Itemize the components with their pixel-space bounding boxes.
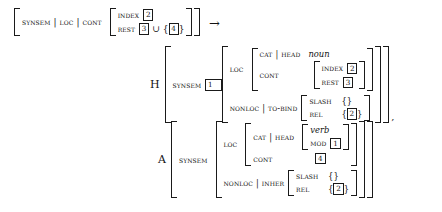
feature-cat: CAT bbox=[260, 49, 273, 59]
h-nonloc-row: NONLOC | TO-BIND SLASH {} bbox=[230, 93, 374, 124]
mother-avm: SYNSEM | LOC | CONT INDEX 2 REST 3 bbox=[14, 8, 200, 36]
slash-row: SLASH {} bbox=[296, 170, 349, 182]
path-separator: | bbox=[266, 132, 275, 142]
feature-loc: LOC bbox=[230, 64, 252, 74]
tag-rest: 3 bbox=[139, 23, 149, 35]
tag-mod: 1 bbox=[330, 138, 340, 150]
path-separator: | bbox=[253, 178, 262, 188]
bracket-right bbox=[343, 124, 349, 150]
h-cont-matrix: INDEX 2 REST 3 bbox=[314, 61, 366, 89]
h-to-bind-matrix: SLASH {} REL { 2 } bbox=[301, 95, 370, 121]
mother-rows: SYNSEM | LOC | CONT INDEX 2 REST 3 bbox=[22, 8, 192, 36]
bracket-right bbox=[375, 46, 381, 123]
tag-index: 2 bbox=[347, 63, 357, 75]
bracket-right bbox=[351, 170, 357, 196]
h-cat-head-row: CAT | HEAD noun bbox=[260, 48, 366, 60]
bracket-left bbox=[14, 8, 20, 36]
daughter-separator-comma: , bbox=[389, 111, 394, 123]
bracket-left bbox=[222, 46, 228, 123]
tag-rel: 2 bbox=[333, 183, 343, 195]
h-loc-rows: CAT | HEAD noun CONT bbox=[260, 48, 366, 90]
feature-inher: INHER bbox=[262, 178, 288, 188]
type-noun: noun bbox=[308, 49, 329, 59]
bracket-right bbox=[186, 8, 192, 36]
bracket-left bbox=[252, 48, 258, 90]
a-synsem-matrix: LOC CAT | HEAD bbox=[216, 121, 365, 198]
path-separator: | bbox=[51, 17, 60, 27]
mother-cont-matrix: INDEX 2 REST 3 ∪ { 4 } bbox=[110, 8, 193, 36]
rest-row: REST 3 ∪ { 4 } bbox=[118, 22, 185, 36]
bracket-right bbox=[367, 121, 373, 198]
union-operator: ∪ bbox=[149, 24, 163, 34]
set-close-brace: } bbox=[357, 109, 362, 119]
feature-cont: CONT bbox=[260, 70, 314, 80]
a-loc-rows: CAT | HEAD verb bbox=[253, 123, 348, 165]
h-synsem-matrix: LOC CAT | HEAD noun bbox=[222, 46, 382, 123]
a-outer-matrix: SYNSEM LOC CAT bbox=[171, 121, 373, 198]
daughter-label-a: A bbox=[158, 154, 171, 165]
feature-cont: CONT bbox=[253, 154, 315, 164]
feature-index: INDEX bbox=[118, 10, 144, 20]
type-verb: verb bbox=[310, 125, 329, 135]
h-loc-matrix: CAT | HEAD noun CONT bbox=[252, 48, 374, 90]
feature-mod: MOD bbox=[310, 138, 330, 148]
bracket-right bbox=[359, 61, 365, 89]
bracket-left bbox=[171, 121, 177, 198]
feature-slash: SLASH bbox=[309, 96, 341, 106]
h-synsem-rows: LOC CAT | HEAD noun bbox=[230, 46, 374, 123]
tag-rest-addend: 4 bbox=[169, 23, 179, 35]
feature-rest: REST bbox=[118, 24, 139, 34]
h-cont-rows: INDEX 2 REST 3 bbox=[322, 61, 358, 89]
a-head-rows: verb MOD 1 bbox=[310, 124, 340, 150]
path-separator: | bbox=[73, 17, 82, 27]
feature-loc: LOC bbox=[224, 139, 246, 149]
a-inher-rows: SLASH {} REL { 2 } bbox=[296, 170, 349, 196]
feature-nonloc: NONLOC bbox=[224, 178, 254, 188]
tag-rest: 3 bbox=[343, 77, 353, 89]
feature-synsem: SYNSEM bbox=[173, 80, 206, 90]
tag-synsem: 1 bbox=[205, 79, 222, 91]
a-rows: SYNSEM LOC CAT bbox=[179, 121, 365, 198]
h-loc-row: LOC CAT | HEAD noun bbox=[230, 46, 374, 93]
mother-cont-rows: INDEX 2 REST 3 ∪ { 4 } bbox=[118, 8, 185, 36]
rel-row: REL { 2 } bbox=[296, 182, 349, 196]
slash-row: SLASH {} bbox=[309, 95, 362, 107]
a-synsem-row: SYNSEM LOC CAT bbox=[179, 121, 365, 198]
a-loc-row: LOC CAT | HEAD bbox=[224, 121, 357, 168]
rest-row: REST 3 bbox=[322, 75, 358, 89]
h-to-bind-rows: SLASH {} REL { 2 } bbox=[309, 95, 362, 121]
bracket-right bbox=[367, 48, 373, 90]
bracket-right bbox=[359, 121, 365, 198]
h-cont-row: CONT INDEX 2 bbox=[260, 60, 366, 90]
bracket-left bbox=[288, 170, 294, 196]
feature-rel: REL bbox=[309, 109, 341, 119]
a-cat-head-row: CAT | HEAD verb bbox=[253, 123, 348, 151]
implication-arrow: → bbox=[209, 17, 220, 30]
bracket-left bbox=[165, 46, 171, 123]
a-head-matrix: verb MOD 1 bbox=[302, 124, 348, 150]
a-cont-row: CONT 4 bbox=[253, 152, 348, 166]
rel-row: REL { 2 } bbox=[309, 107, 362, 121]
feature-nonloc: NONLOC bbox=[230, 103, 260, 113]
bracket-left bbox=[110, 8, 116, 36]
a-head-type-row: verb bbox=[310, 124, 340, 136]
bracket-left bbox=[245, 123, 251, 165]
path-separator: | bbox=[259, 103, 268, 113]
index-row: INDEX 2 bbox=[118, 8, 185, 22]
index-row: INDEX 2 bbox=[322, 61, 358, 75]
bracket-right bbox=[194, 8, 200, 36]
bracket-left bbox=[301, 95, 307, 121]
set-close-brace: } bbox=[179, 24, 185, 34]
feature-loc: LOC bbox=[60, 17, 74, 27]
feature-cont: CONT bbox=[82, 17, 109, 27]
path-separator: | bbox=[272, 49, 281, 59]
feature-synsem: SYNSEM bbox=[22, 17, 51, 27]
bracket-right bbox=[351, 123, 357, 165]
empty-set: {} bbox=[341, 96, 352, 106]
bracket-right bbox=[364, 95, 370, 121]
tag-rel: 2 bbox=[347, 108, 357, 120]
mother-path-row: SYNSEM | LOC | CONT INDEX 2 REST 3 bbox=[22, 8, 192, 36]
daughter-a: A SYNSEM LOC bbox=[158, 121, 373, 198]
a-mod-row: MOD 1 bbox=[310, 136, 340, 150]
a-nonloc-row: NONLOC | INHER SLASH {} bbox=[224, 168, 357, 199]
